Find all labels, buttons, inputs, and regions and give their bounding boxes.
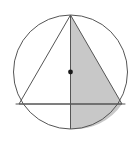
geometry-svg	[0, 0, 137, 142]
circle-center-dot	[68, 70, 73, 75]
geometry-figure	[0, 0, 137, 142]
